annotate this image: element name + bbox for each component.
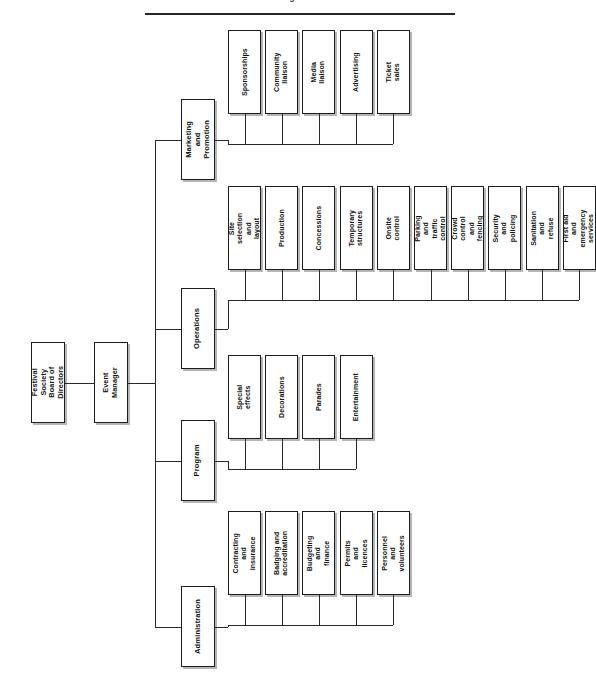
riser-marketing-and [228,140,229,145]
node-unit-advertising-label: Advertising [352,52,360,92]
riser-operations [228,300,229,329]
node-unit-sanitation-and: Sanitation and refuse [526,186,559,270]
node-board-of-directors: Festival Society Board of Directors [31,342,65,423]
node-event-manager: Event Manager [94,342,128,423]
riser-program [228,461,229,470]
stub-contracting-and [245,595,246,625]
node-unit-ticket-sales: Ticket sales [377,30,410,114]
node-unit-first-aid-and: First aid and emergency services [563,186,596,270]
clipped-caption: Figure [240,0,350,7]
node-dept-operations: Operations [181,288,215,369]
link-manager-to-trunk [128,383,155,384]
node-unit-decorations: Decorations [265,355,298,439]
stub-concessions [319,270,320,300]
stub-onsite-control [393,270,394,300]
link-board-to-manager [65,383,94,384]
node-unit-security-and-label: Security and policing [493,213,518,244]
node-unit-community: Community liaison [265,30,298,114]
node-unit-entertainment: Entertainment [340,355,373,439]
node-unit-media-liaison: Media liaison [302,30,335,114]
stub-personnel-and [393,595,394,625]
link-trunk-to-marketing-and [155,140,181,141]
stub-special-effects [245,439,246,469]
node-unit-special-effects: Special effects [228,355,261,439]
node-unit-first-aid-and-label: First aid and emergency services [563,209,596,247]
node-unit-ticket-sales-label: Ticket sales [385,57,402,88]
trunk-vertical [155,140,156,627]
node-unit-contracting-and: Contracting and insurance [228,511,261,595]
stub-sanitation-and [542,270,543,300]
node-unit-personnel-and: Personnel and volunteers [377,511,410,595]
node-unit-community-label: Community liaison [273,52,290,91]
stub-ticket-sales [393,114,394,144]
node-dept-administration-label: Administration [194,599,203,654]
node-dept-marketing-and: Marketing and Promotion [181,99,215,180]
stub-parades [319,439,320,469]
node-unit-entertainment-label: Entertainment [352,373,360,421]
node-unit-site-selection-and-label: Site selection and layout [228,212,261,243]
node-unit-special-effects-label: Special effects [236,382,253,413]
stub-security-and [505,270,506,300]
node-unit-crowd-control-and-label: Crowd control and fencing [451,213,484,244]
bus-operations [228,300,579,301]
node-unit-media-liaison-label: Media liaison [311,57,328,88]
stub-first-aid-and [579,270,580,300]
node-unit-production-label: Production [278,209,286,247]
stub-temporary [356,270,357,300]
stub-advertising [356,114,357,144]
node-unit-parades: Parades [302,355,335,439]
link-marketing-and-to-bus [215,140,228,141]
node-unit-sponsorships: Sponsorships [228,30,261,114]
node-unit-personnel-and-label: Personnel and volunteers [381,535,406,571]
stub-media-liaison [319,114,320,144]
node-unit-contracting-and-label: Contracting and insurance [232,533,257,573]
node-dept-marketing-and-label: Marketing and Promotion [185,120,212,159]
node-unit-onsite-control-label: Onsite control [385,213,402,244]
node-unit-temporary: Temporary structures [340,186,373,270]
node-unit-permits-and: Permits and licences [340,511,373,595]
link-trunk-to-program [155,461,181,462]
node-dept-program: Program [181,420,215,501]
stub-sponsorships [245,114,246,144]
node-unit-advertising: Advertising [340,30,373,114]
node-dept-operations-label: Operations [194,308,203,349]
node-unit-site-selection-and: Site selection and layout [228,186,261,270]
node-board-of-directors-label: Festival Society Board of Directors [31,366,65,399]
bus-marketing-and [228,144,393,145]
node-unit-concessions-label: Concessions [315,206,323,251]
stub-parking-and [431,270,432,300]
stub-production [282,270,283,300]
node-unit-budgeting-and-label: Budgeting and finance [307,535,332,571]
node-unit-security-and: Security and policing [488,186,521,270]
link-operations-to-bus [215,329,228,330]
link-program-to-bus [215,461,228,462]
bus-program [228,469,356,470]
stub-entertainment [356,439,357,469]
node-unit-decorations-label: Decorations [278,376,286,418]
link-trunk-to-administration [155,627,181,628]
stub-badging-and [282,595,283,625]
stub-permits-and [356,595,357,625]
stub-decorations [282,439,283,469]
node-unit-parades-label: Parades [315,383,323,411]
node-unit-concessions: Concessions [302,186,335,270]
node-dept-administration: Administration [181,586,215,667]
stub-community [282,114,283,144]
riser-administration [228,625,229,627]
stub-crowd-control-and [468,270,469,300]
node-unit-permits-and-label: Permits and licences [344,538,369,569]
node-dept-program-label: Program [194,445,203,477]
node-unit-parking-and: Parking and traffic control [414,186,447,270]
link-trunk-to-operations [155,329,181,330]
link-administration-to-bus [215,627,228,628]
header-rule [145,13,455,15]
node-unit-badging-and: Badging and accreditation [265,511,298,595]
node-unit-onsite-control: Onsite control [377,186,410,270]
node-unit-production: Production [265,186,298,270]
node-event-manager-label: Event Manager [102,367,119,399]
node-unit-sponsorships-label: Sponsorships [240,48,248,96]
node-unit-sanitation-and-label: Sanitation and refuse [530,211,555,246]
node-unit-budgeting-and: Budgeting and finance [302,511,335,595]
stub-budgeting-and [319,595,320,625]
